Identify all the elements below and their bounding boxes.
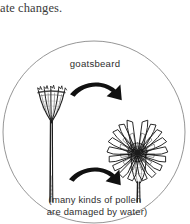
goatsbeard-cycle-figure: goatsbeard (many kinds of pollen are dam… [0, 36, 190, 224]
figure-caption-line-1: (many kinds of pollen [0, 194, 190, 206]
arrow-closing-icon [69, 168, 121, 186]
open-flower-illustration [107, 120, 168, 202]
closed-flower-illustration [38, 85, 67, 202]
page-body-text-fragment: ate changes. [0, 1, 62, 16]
figure-cycle-label: goatsbeard [0, 58, 190, 69]
figure-caption-line-2: are damaged by water) [0, 206, 190, 218]
figure-caption: (many kinds of pollen are damaged by wat… [0, 194, 190, 217]
arrow-opening-icon [70, 83, 122, 101]
